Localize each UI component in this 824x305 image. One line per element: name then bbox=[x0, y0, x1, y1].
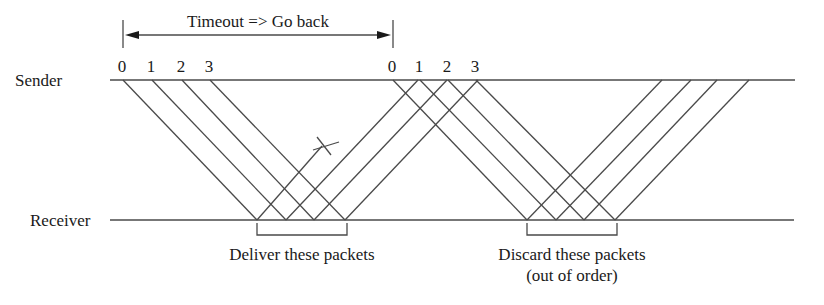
packet-numbers-first-batch: 0123 bbox=[118, 57, 214, 76]
arrowhead-left-icon bbox=[125, 31, 139, 39]
diagram-canvas: Timeout => Go back Sender Receiver 0123 … bbox=[0, 0, 824, 305]
packet-line bbox=[182, 80, 314, 220]
ack-line bbox=[286, 80, 418, 220]
packet-line bbox=[448, 80, 584, 220]
deliver-label: Deliver these packets bbox=[229, 245, 374, 264]
packet-number: 3 bbox=[471, 57, 480, 76]
packet-number: 2 bbox=[443, 57, 452, 76]
packet-line bbox=[420, 80, 556, 220]
packet-number: 1 bbox=[415, 57, 424, 76]
packet-line bbox=[393, 80, 527, 220]
packet-line bbox=[210, 80, 345, 220]
first-batch-packets bbox=[123, 80, 345, 220]
timeout-label: Timeout => Go back bbox=[187, 12, 329, 31]
discard-bracket bbox=[527, 223, 617, 235]
arrowhead-right-icon bbox=[377, 31, 391, 39]
ack-line bbox=[556, 80, 691, 220]
packet-line bbox=[123, 80, 257, 220]
second-batch-acks bbox=[527, 80, 749, 220]
packet-number: 0 bbox=[118, 57, 127, 76]
deliver-bracket bbox=[257, 223, 347, 235]
discard-label: Discard these packets bbox=[498, 245, 645, 264]
ack-line bbox=[314, 80, 447, 220]
lost-ack-line bbox=[257, 146, 322, 220]
packet-number: 1 bbox=[147, 57, 156, 76]
packet-number: 0 bbox=[388, 57, 397, 76]
packet-number: 2 bbox=[177, 57, 186, 76]
ack-line bbox=[615, 80, 749, 220]
packet-numbers-second-batch: 0123 bbox=[388, 57, 480, 76]
receiver-label: Receiver bbox=[30, 211, 91, 230]
ack-line bbox=[584, 80, 717, 220]
ack-line bbox=[345, 80, 478, 220]
sender-label: Sender bbox=[15, 71, 63, 90]
packet-line bbox=[152, 80, 286, 220]
timeout-arrow: Timeout => Go back bbox=[123, 12, 393, 48]
lost-mark-icon-stroke bbox=[317, 137, 331, 155]
discard-sublabel: (out of order) bbox=[526, 266, 618, 285]
packet-number: 3 bbox=[205, 57, 214, 76]
